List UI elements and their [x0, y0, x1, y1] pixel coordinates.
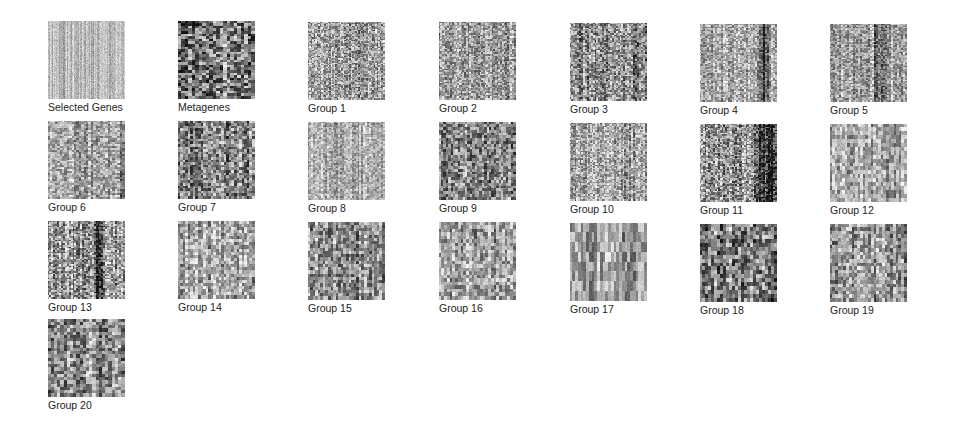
heatmap-tile-6[interactable]: Group 4	[700, 24, 780, 116]
heatmap-thumbnail[interactable]	[48, 21, 125, 99]
heatmap-tile-label: Group 8	[308, 202, 388, 214]
heatmap-tile-label: Group 7	[178, 201, 258, 213]
heatmap-thumbnail[interactable]	[178, 221, 255, 299]
heatmap-tile-label: Group 17	[570, 303, 650, 315]
heatmap-thumbnail[interactable]	[700, 224, 777, 302]
heatmap-tile-3[interactable]: Group 1	[308, 22, 388, 114]
heatmap-tile-label: Group 19	[830, 304, 910, 316]
heatmap-tile-11[interactable]: Group 9	[439, 122, 519, 214]
heatmap-tile-18[interactable]: Group 16	[439, 222, 519, 314]
heatmap-tile-label: Group 12	[830, 204, 910, 216]
heatmap-thumbnail[interactable]	[700, 24, 777, 102]
heatmap-tile-label: Metagenes	[178, 101, 258, 113]
heatmap-tile-label: Group 14	[178, 301, 258, 313]
heatmap-tile-7[interactable]: Group 5	[830, 24, 910, 116]
heatmap-tile-label: Group 18	[700, 304, 780, 316]
heatmap-thumbnail[interactable]	[48, 121, 125, 199]
heatmap-tile-5[interactable]: Group 3	[570, 23, 650, 115]
heatmap-tile-label: Group 1	[308, 102, 388, 114]
heatmap-tile-20[interactable]: Group 18	[700, 224, 780, 316]
heatmap-tile-17[interactable]: Group 15	[308, 222, 388, 314]
heatmap-tile-label: Group 20	[48, 399, 128, 411]
heatmap-tile-label: Group 9	[439, 202, 519, 214]
heatmap-tile-label: Group 6	[48, 201, 128, 213]
heatmap-thumbnail[interactable]	[439, 222, 516, 300]
heatmap-tile-12[interactable]: Group 10	[570, 123, 650, 215]
heatmap-tile-label: Group 2	[439, 102, 519, 114]
heatmap-tile-10[interactable]: Group 8	[308, 122, 388, 214]
heatmap-tile-4[interactable]: Group 2	[439, 22, 519, 114]
heatmap-tile-22[interactable]: Group 20	[48, 319, 128, 411]
heatmap-tile-9[interactable]: Group 7	[178, 121, 258, 213]
heatmap-tile-15[interactable]: Group 13	[48, 221, 128, 313]
heatmap-tile-14[interactable]: Group 12	[830, 124, 910, 216]
heatmap-tile-8[interactable]: Group 6	[48, 121, 128, 213]
heatmap-thumbnail[interactable]	[570, 23, 647, 101]
heatmap-tile-13[interactable]: Group 11	[700, 124, 780, 216]
heatmap-tile-label: Group 10	[570, 203, 650, 215]
heatmap-tile-label: Group 4	[700, 104, 780, 116]
heatmap-tile-1[interactable]: Selected Genes	[48, 21, 128, 113]
heatmap-tile-label: Group 5	[830, 104, 910, 116]
heatmap-thumbnail[interactable]	[830, 124, 907, 202]
heatmap-thumbnail[interactable]	[700, 124, 777, 202]
heatmap-thumbnail[interactable]	[439, 122, 516, 200]
heatmap-thumbnail[interactable]	[308, 22, 385, 100]
heatmap-thumbnail[interactable]	[48, 221, 125, 299]
heatmap-tile-2[interactable]: Metagenes	[178, 21, 258, 113]
heatmap-tile-label: Group 16	[439, 302, 519, 314]
heatmap-thumbnail[interactable]	[48, 319, 125, 397]
heatmap-thumbnail[interactable]	[570, 223, 647, 301]
heatmap-thumbnail[interactable]	[308, 122, 385, 200]
heatmap-tile-16[interactable]: Group 14	[178, 221, 258, 313]
heatmap-tile-label: Group 11	[700, 204, 780, 216]
heatmap-tile-21[interactable]: Group 19	[830, 224, 910, 316]
heatmap-thumbnail[interactable]	[308, 222, 385, 300]
heatmap-thumbnail[interactable]	[570, 123, 647, 201]
heatmap-tile-label: Group 13	[48, 301, 128, 313]
heatmap-tile-label: Group 15	[308, 302, 388, 314]
heatmap-thumbnail[interactable]	[178, 121, 255, 199]
heatmap-thumbnail[interactable]	[830, 224, 907, 302]
heatmap-tile-label: Selected Genes	[48, 101, 128, 113]
heatmap-thumbnail[interactable]	[439, 22, 516, 100]
heatmap-tile-19[interactable]: Group 17	[570, 223, 650, 315]
heatmap-tile-label: Group 3	[570, 103, 650, 115]
heatmap-thumbnail[interactable]	[178, 21, 255, 99]
heatmap-thumbnail[interactable]	[830, 24, 907, 102]
